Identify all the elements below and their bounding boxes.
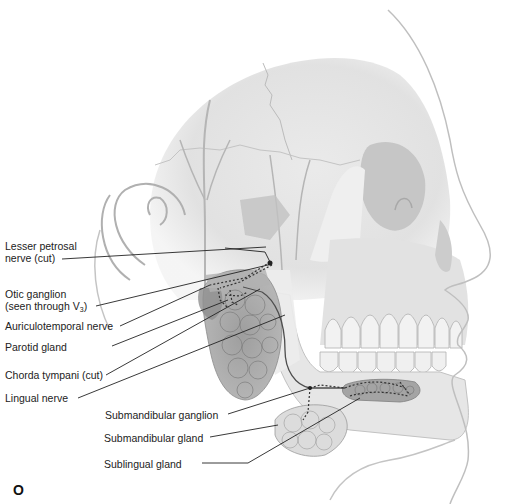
- label-otic-ganglion: Otic ganglion (seen through V3): [5, 288, 87, 316]
- label-submandibular-gland: Submandibular gland: [104, 432, 203, 444]
- label-sublingual-gland: Sublingual gland: [104, 458, 182, 470]
- label-auriculotemporal-nerve: Auriculotemporal nerve: [5, 320, 113, 332]
- neck-outline: [330, 440, 455, 500]
- lower-teeth: [320, 352, 446, 374]
- label-chorda-tympani: Chorda tympani (cut): [5, 369, 103, 381]
- anatomy-figure: Lesser petrosal nerve (cut) Otic ganglio…: [0, 0, 509, 504]
- panel-letter: O: [13, 482, 24, 498]
- label-submandibular-ganglion: Submandibular ganglion: [105, 409, 218, 421]
- label-lesser-petrosal-nerve: Lesser petrosal nerve (cut): [5, 240, 77, 264]
- label-parotid-gland: Parotid gland: [5, 341, 67, 353]
- label-lingual-nerve: Lingual nerve: [5, 392, 68, 404]
- submandibular-gland: [275, 405, 347, 457]
